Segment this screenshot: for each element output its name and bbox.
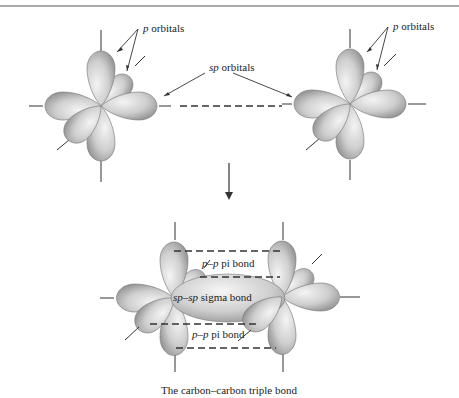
figure-caption: The carbon–carbon triple bond <box>161 384 297 396</box>
svg-text:p orbitals: p orbitals <box>392 20 434 32</box>
p-orbitals-label-left: p orbitals <box>117 22 184 71</box>
svg-text:p orbitals: p orbitals <box>142 22 184 34</box>
sigma-bond-label: sp–sp sigma bond <box>173 291 252 303</box>
p-orbitals-label-right: p orbitals <box>367 20 434 70</box>
triple-bond-molecule: p–p pi bond sp–sp sigma bond p–p pi bond <box>100 222 360 372</box>
triple-bond-diagram: p orbitals p orbitals sp orbitals <box>0 0 459 398</box>
carbon-atom-right <box>282 29 426 180</box>
reaction-arrow <box>225 163 233 200</box>
pi-bond-bottom-label: p–p pi bond <box>191 328 245 340</box>
svg-text:sp orbitals: sp orbitals <box>209 61 255 73</box>
pi-bond-top-label: p–p pi bond <box>201 257 255 269</box>
carbon-atom-left <box>29 30 171 182</box>
sp-orbitals-label: sp orbitals <box>164 61 292 97</box>
